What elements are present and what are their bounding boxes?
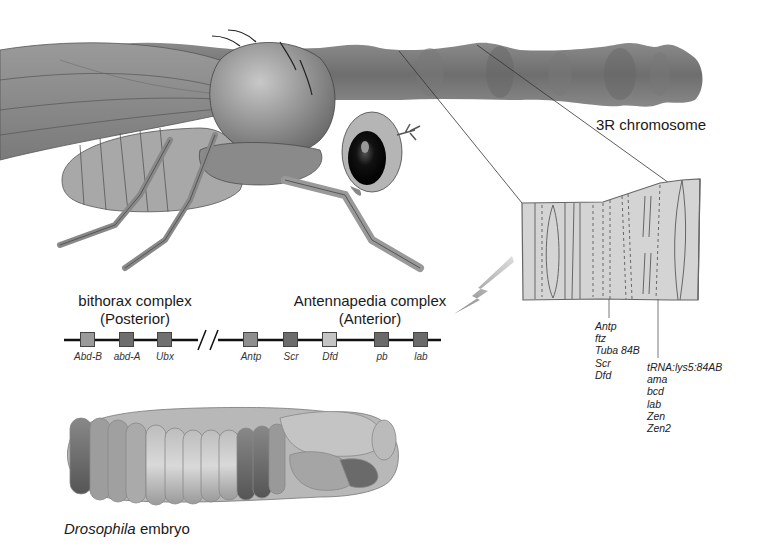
gene-name: ftz xyxy=(595,332,640,344)
bithorax-subtitle: (Posterior) xyxy=(60,310,210,327)
gene-box-pb xyxy=(374,332,389,347)
gene-label: Dfd xyxy=(310,351,350,362)
gene-box-scr xyxy=(283,332,298,347)
gene-name: Antp xyxy=(595,320,640,332)
gene-box-lab xyxy=(413,332,428,347)
illustration-canvas xyxy=(0,0,773,550)
caption-genus: Drosophila xyxy=(64,520,136,537)
drosophila-embryo xyxy=(67,407,398,505)
gene-name: Scr xyxy=(595,357,640,369)
gene-name: Tuba 84B xyxy=(595,344,640,356)
gene-box-antp xyxy=(243,332,258,347)
gene-name: Zen2 xyxy=(647,422,722,434)
gene-label: Scr xyxy=(271,351,311,362)
gene-name: tRNA:lys5:84AB xyxy=(647,361,722,373)
gene-box-ubx xyxy=(157,332,172,347)
chromosome-label: 3R chromosome xyxy=(596,116,706,133)
gene-box-abd-b xyxy=(80,332,95,347)
gene-label: abd-A xyxy=(107,351,147,362)
band-gene-list-2: tRNA:lys5:84AB ama bcd lab Zen Zen2 xyxy=(647,361,722,434)
embryo-caption: Drosophila embryo xyxy=(64,520,190,537)
gene-box-abd-a xyxy=(119,332,134,347)
gene-label: lab xyxy=(401,351,441,362)
gene-name: Zen xyxy=(647,410,722,422)
gene-label: Abd-B xyxy=(68,351,108,362)
gene-label: Ubx xyxy=(145,351,185,362)
antennapedia-title: Antennapedia complex xyxy=(280,292,460,309)
gene-label: Antp xyxy=(231,351,271,362)
bithorax-title: bithorax complex xyxy=(60,292,210,309)
gene-name: ama xyxy=(647,373,722,385)
gene-name: bcd xyxy=(647,385,722,397)
gene-name: lab xyxy=(647,398,722,410)
band-gene-list-1: Antp ftz Tuba 84B Scr Dfd xyxy=(595,320,640,381)
antennapedia-subtitle: (Anterior) xyxy=(280,310,460,327)
arrow-icon xyxy=(454,256,514,314)
gene-box-dfd xyxy=(322,332,337,347)
gene-label: pb xyxy=(362,351,402,362)
gene-name: Dfd xyxy=(595,369,640,381)
caption-rest: embryo xyxy=(136,520,190,537)
